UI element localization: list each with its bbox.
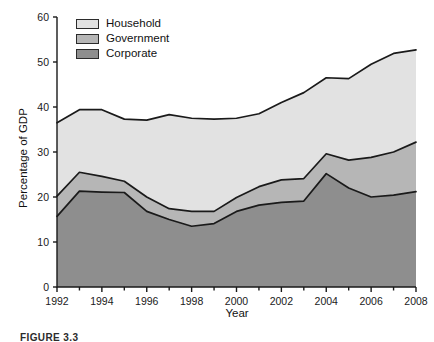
legend-item-government: Government — [76, 32, 169, 45]
x-tick-label-1998: 1998 — [172, 296, 212, 307]
legend-item-household: Household — [76, 17, 169, 30]
y-tick-label-50: 50 — [23, 57, 49, 68]
figure-container: 0102030405060 19921994199619982000200220… — [0, 0, 434, 342]
x-tick-label-2002: 2002 — [261, 296, 301, 307]
y-tick-label-0: 0 — [23, 282, 49, 293]
y-tick-label-60: 60 — [23, 12, 49, 23]
x-tick-label-1994: 1994 — [82, 296, 122, 307]
legend-label-government: Government — [106, 33, 169, 45]
legend-swatch-corporate — [76, 49, 99, 59]
y-tick-label-10: 10 — [23, 237, 49, 248]
x-tick-label-1996: 1996 — [127, 296, 167, 307]
x-tick-label-2008: 2008 — [396, 296, 434, 307]
x-tick-label-2006: 2006 — [351, 296, 391, 307]
legend-label-corporate: Corporate — [106, 48, 157, 60]
x-axis-title: Year — [57, 307, 417, 319]
x-tick-label-2000: 2000 — [217, 296, 257, 307]
figure-caption: FIGURE 3.3 — [20, 332, 78, 342]
legend-swatch-household — [76, 19, 99, 29]
legend-label-household: Household — [106, 18, 161, 30]
chart-legend: HouseholdGovernmentCorporate — [76, 17, 169, 62]
stacked-area-chart — [0, 0, 434, 342]
legend-item-corporate: Corporate — [76, 47, 169, 60]
x-tick-label-2004: 2004 — [306, 296, 346, 307]
y-axis-title: Percentage of GDP — [17, 88, 29, 228]
legend-swatch-government — [76, 34, 99, 44]
x-tick-label-1992: 1992 — [37, 296, 77, 307]
